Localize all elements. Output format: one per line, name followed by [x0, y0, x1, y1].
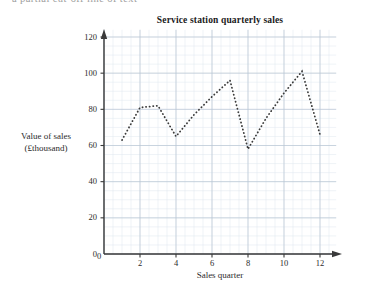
- major-gridlines: [104, 30, 336, 254]
- top-cut-off-text: a partial cut-off line of text: [12, 0, 222, 5]
- y-tick-label: 80: [73, 104, 97, 114]
- x-axis-title: Sales quarter: [104, 270, 336, 280]
- chart-figure: a partial cut-off line of text Service s…: [0, 0, 372, 296]
- y-tick-label: 20: [73, 212, 97, 222]
- y-tick-label: 120: [73, 32, 97, 42]
- y-tick-label: 100: [73, 68, 97, 78]
- x-tick-label: 2: [131, 258, 149, 268]
- x-tick-label: 8: [239, 258, 257, 268]
- axis-lines: [101, 29, 342, 257]
- x-tick-label: 12: [311, 258, 329, 268]
- x-tick-label: 0: [90, 251, 108, 261]
- minor-gridlines: [104, 30, 336, 254]
- y-tick-label: 40: [73, 176, 97, 186]
- x-tick-label: 4: [167, 258, 185, 268]
- y-tick-label: 60: [73, 140, 97, 150]
- x-tick-label: 6: [203, 258, 221, 268]
- chart-title: Service station quarterly sales: [104, 15, 336, 25]
- axis-ticks: [101, 37, 321, 258]
- x-tick-label: 10: [275, 258, 293, 268]
